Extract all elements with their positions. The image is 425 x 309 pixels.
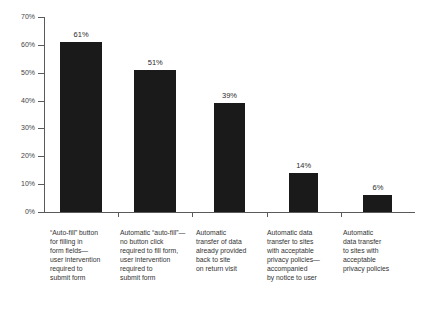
bar bbox=[134, 70, 176, 212]
y-axis-label-slot: 10% bbox=[0, 184, 35, 185]
bar-value-label: 6% bbox=[358, 184, 398, 192]
x-axis-category-label: Automatic “auto-fill”—no button clickreq… bbox=[120, 228, 196, 283]
x-axis-category-label: Automatictransfer of dataalready provide… bbox=[196, 228, 268, 273]
y-axis-tick-label: 30% bbox=[21, 124, 35, 131]
y-axis-label-slot: 50% bbox=[0, 73, 35, 74]
category-label-line: with acceptable bbox=[267, 246, 343, 255]
category-label-line: back to site bbox=[196, 255, 268, 264]
y-axis-label-slot: 60% bbox=[0, 45, 35, 46]
category-label-line: user intervention bbox=[120, 255, 196, 264]
y-axis-label-slot: 70% bbox=[0, 17, 35, 18]
category-label-line: required to bbox=[120, 264, 196, 273]
bars-container bbox=[44, 17, 415, 212]
category-label-line: for filling in bbox=[50, 237, 122, 246]
bar bbox=[60, 42, 102, 212]
y-axis-tick-label: 10% bbox=[21, 180, 35, 187]
bar bbox=[363, 195, 392, 212]
x-axis-line bbox=[44, 212, 415, 213]
category-label-line: accompanied bbox=[267, 264, 343, 273]
category-label-line: required to bbox=[50, 264, 122, 273]
bar bbox=[289, 173, 318, 212]
y-axis-label-slot: 20% bbox=[0, 156, 35, 157]
x-axis-category-label: Automatic datatransfer to siteswith acce… bbox=[267, 228, 343, 283]
category-label-line: by notice to user bbox=[267, 273, 343, 282]
bar bbox=[214, 103, 245, 212]
category-label-line: on return visit bbox=[196, 264, 268, 273]
bar-chart: 0%10%20%30%40%50%60%70% 61%51%39%14%6% “… bbox=[0, 0, 425, 309]
bar-value-label: 61% bbox=[61, 31, 101, 39]
y-axis-tick-label: 40% bbox=[21, 97, 35, 104]
y-axis-label-slot: 0% bbox=[0, 212, 35, 213]
bar-value-label: 39% bbox=[210, 92, 250, 100]
category-label-line: privacy policies— bbox=[267, 255, 343, 264]
category-label-line: submit form bbox=[120, 273, 196, 282]
y-axis-tick-label: 70% bbox=[21, 13, 35, 20]
y-axis-tick-label: 0% bbox=[25, 208, 35, 215]
category-label-line: no button click bbox=[120, 237, 196, 246]
category-label-line: Automatic “auto-fill”— bbox=[120, 228, 196, 237]
category-label-line: already provided bbox=[196, 246, 268, 255]
category-label-line: user intervention bbox=[50, 255, 122, 264]
x-axis-category-label: “Auto-fill” buttonfor filling inform fie… bbox=[50, 228, 122, 283]
category-label-line: transfer of data bbox=[196, 237, 268, 246]
x-axis-category-label: Automaticdata transferto sites withaccep… bbox=[343, 228, 415, 273]
category-label-line: “Auto-fill” button bbox=[50, 228, 122, 237]
category-label-line: submit form bbox=[50, 273, 122, 282]
bar-value-label: 14% bbox=[284, 162, 324, 170]
category-label-line: to sites with bbox=[343, 246, 415, 255]
category-label-line: data transfer bbox=[343, 237, 415, 246]
x-axis-tick bbox=[267, 212, 268, 217]
category-label-line: transfer to sites bbox=[267, 237, 343, 246]
x-axis-tick bbox=[118, 212, 119, 217]
y-axis-tick-label: 50% bbox=[21, 69, 35, 76]
x-axis-tick bbox=[341, 212, 342, 217]
x-axis-tick bbox=[192, 212, 193, 217]
category-label-line: Automatic data bbox=[267, 228, 343, 237]
y-axis-label-slot: 30% bbox=[0, 128, 35, 129]
category-label-line: privacy policies bbox=[343, 264, 415, 273]
y-axis-label-slot: 40% bbox=[0, 101, 35, 102]
category-label-line: Automatic bbox=[196, 228, 268, 237]
category-label-line: acceptable bbox=[343, 255, 415, 264]
y-axis-tick-label: 60% bbox=[21, 41, 35, 48]
y-axis-tick-label: 20% bbox=[21, 152, 35, 159]
bar-value-label: 51% bbox=[135, 59, 175, 67]
category-label-line: Automatic bbox=[343, 228, 415, 237]
category-label-line: form fields— bbox=[50, 246, 122, 255]
category-label-line: required to fill form, bbox=[120, 246, 196, 255]
